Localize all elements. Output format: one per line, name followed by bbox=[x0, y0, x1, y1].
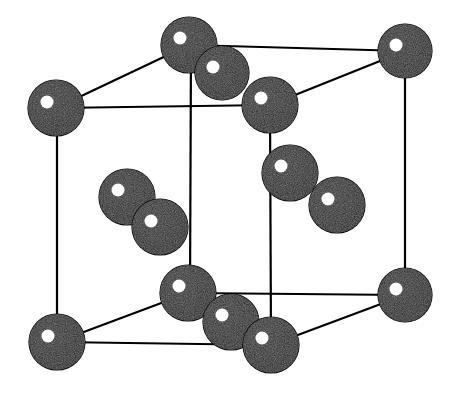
atom-back-bottom-right-highlight-icon bbox=[390, 283, 403, 296]
atom-interior-mid-right-a-highlight-icon bbox=[275, 160, 288, 173]
atom-back-bottom-right bbox=[377, 267, 432, 322]
atom-interior-top-a bbox=[194, 45, 249, 100]
atom-front-bottom-right-body bbox=[243, 317, 299, 373]
bond-front-right-edge bbox=[270, 105, 271, 345]
atom-front-top-left-highlight-icon bbox=[41, 96, 54, 109]
atom-interior-mid-left-a-highlight-icon bbox=[112, 184, 125, 197]
atom-front-top-left-body bbox=[28, 80, 84, 136]
atom-interior-top-a-highlight-icon bbox=[207, 61, 220, 74]
atom-interior-bottom-a-highlight-icon bbox=[216, 309, 229, 322]
atom-interior-mid-right-b bbox=[308, 176, 365, 233]
lattice-diagram bbox=[0, 0, 459, 396]
atom-interior-mid-right-a-body bbox=[262, 145, 318, 201]
atom-front-bottom-left-body bbox=[29, 314, 85, 370]
atom-interior-top-a-body bbox=[195, 46, 249, 100]
atom-back-top-right bbox=[377, 23, 432, 78]
atom-front-bottom-right bbox=[242, 316, 299, 373]
crystal-lattice-figure: Diamond cubic crystal lattice unit cell … bbox=[0, 0, 459, 396]
atom-front-bottom-left-highlight-icon bbox=[42, 330, 55, 343]
bond-back-left-edge bbox=[190, 45, 191, 293]
atom-interior-mid-right-a bbox=[261, 144, 318, 201]
atom-back-top-left-highlight-icon bbox=[174, 32, 187, 45]
atom-interior-mid-left-b bbox=[131, 198, 188, 255]
atom-back-top-right-body bbox=[378, 24, 432, 78]
atom-back-top-right-highlight-icon bbox=[390, 39, 403, 52]
atom-interior-mid-right-b-highlight-icon bbox=[322, 193, 335, 206]
atom-interior-mid-left-b-body bbox=[132, 199, 188, 255]
atom-back-bottom-left-highlight-icon bbox=[173, 280, 186, 293]
atom-interior-mid-right-b-body bbox=[309, 177, 365, 233]
atom-front-top-right-body bbox=[242, 77, 298, 133]
atom-back-bottom-right-body bbox=[378, 268, 432, 322]
atom-front-bottom-right-highlight-icon bbox=[256, 332, 269, 345]
atom-front-top-left bbox=[27, 79, 84, 136]
atom-front-bottom-left bbox=[28, 313, 85, 370]
atom-interior-mid-left-b-highlight-icon bbox=[145, 215, 158, 228]
atom-front-top-right bbox=[241, 76, 298, 133]
atom-front-top-right-highlight-icon bbox=[255, 92, 268, 105]
